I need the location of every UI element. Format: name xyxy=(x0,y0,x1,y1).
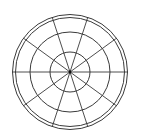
center-point xyxy=(69,71,72,74)
polar-grid-diagram xyxy=(0,0,143,137)
spoke-9 xyxy=(70,72,88,127)
spoke-3 xyxy=(70,17,88,72)
polar-grid-svg xyxy=(0,0,143,137)
spoke-8 xyxy=(52,72,70,127)
spoke-4 xyxy=(52,17,70,72)
